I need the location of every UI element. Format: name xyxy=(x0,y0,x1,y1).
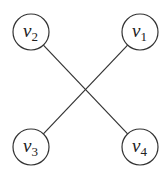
node-v4: v4 xyxy=(122,129,158,165)
node-v1: v1 xyxy=(122,14,158,50)
node-subscript: 3 xyxy=(31,144,38,159)
node-v2: v2 xyxy=(13,14,49,50)
node-subscript: 2 xyxy=(31,29,38,44)
graph-canvas: v1v2v3v4 xyxy=(0,0,167,173)
node-v3: v3 xyxy=(13,129,49,165)
node-subscript: 1 xyxy=(140,29,147,44)
node-subscript: 4 xyxy=(140,144,147,159)
graph-diagram: v1v2v3v4 xyxy=(0,0,167,173)
